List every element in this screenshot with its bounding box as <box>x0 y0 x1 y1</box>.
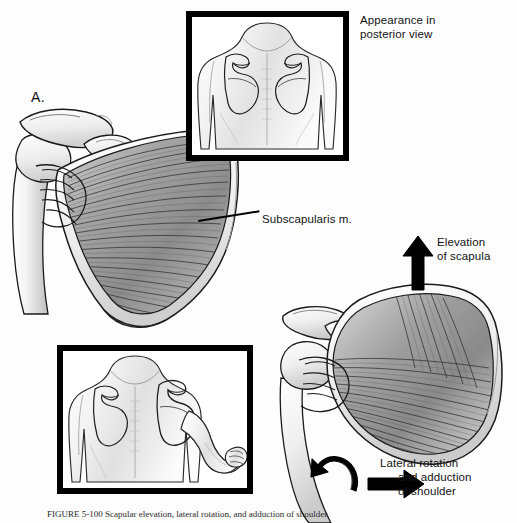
inset-posterior-neutral <box>186 11 349 161</box>
inset-posterior-action-image <box>63 351 247 488</box>
elevation-arrow-icon <box>400 234 436 292</box>
label-action-line3: of shoulder <box>398 485 456 499</box>
label-appearance-line2: posterior view <box>360 28 432 42</box>
label-action-line2: and adduction <box>398 471 472 485</box>
rotation-arrow-icon <box>310 445 366 501</box>
label-elevation-line1: Elevation <box>437 236 485 250</box>
inset-posterior-neutral-image <box>192 17 343 155</box>
figure-caption: FIGURE 5-100 Scapular elevation, lateral… <box>47 509 487 520</box>
label-subscapularis: Subscapularis m. <box>262 213 352 227</box>
inset-posterior-action <box>57 345 253 494</box>
label-appearance-line1: Appearance in <box>360 14 435 28</box>
label-elevation-line2: of scapula <box>437 250 490 264</box>
figure-page: A. <box>0 0 517 523</box>
label-action-line1: Lateral rotation <box>380 457 458 471</box>
